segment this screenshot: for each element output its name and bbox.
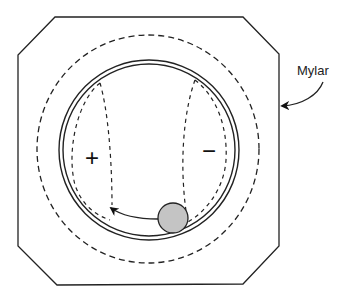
mylar-callout-arrow xyxy=(282,82,323,106)
diagram-canvas: + − Mylar xyxy=(0,0,346,297)
ball xyxy=(158,203,188,233)
octagon-frame xyxy=(18,17,279,285)
outer-dashed-circle xyxy=(37,35,259,263)
motion-arrow xyxy=(111,208,158,219)
mylar-label: Mylar xyxy=(297,63,329,78)
positive-sign: + xyxy=(85,144,99,171)
negative-sign: − xyxy=(202,137,216,164)
